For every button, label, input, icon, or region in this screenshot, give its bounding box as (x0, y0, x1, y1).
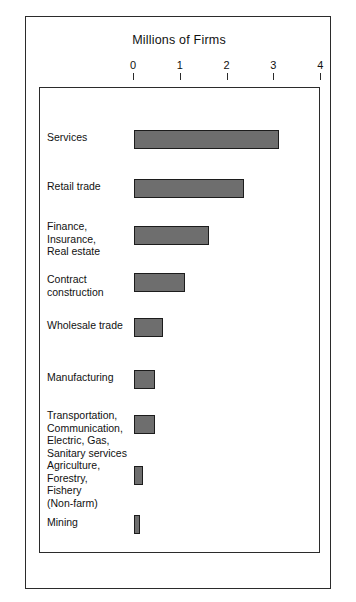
x-axis: 01234 (26, 59, 332, 87)
category-label: Manufacturing (47, 371, 114, 384)
chart-title: Millions of Firms (26, 33, 332, 47)
x-axis-tick-label: 0 (123, 59, 143, 71)
category-label: Retail trade (47, 180, 101, 193)
bar (134, 318, 163, 337)
bar (134, 370, 155, 389)
plot-area: ServicesRetail tradeFinance, Insurance, … (39, 87, 320, 553)
x-axis-tick (133, 73, 134, 80)
bar (134, 226, 209, 245)
x-axis-tick (320, 73, 321, 80)
category-label: Mining (47, 516, 78, 529)
x-axis-tick-label: 3 (263, 59, 283, 71)
bar (134, 466, 143, 485)
figure-frame: Millions of Firms 01234 ServicesRetail t… (25, 16, 331, 589)
category-label: Wholesale trade (47, 319, 123, 332)
category-label: Contract construction (47, 273, 104, 298)
x-axis-tick (180, 73, 181, 80)
x-axis-tick-label: 4 (310, 59, 330, 71)
bar (134, 273, 185, 292)
bar (134, 130, 279, 149)
x-axis-tick (227, 73, 228, 80)
bar (134, 415, 155, 434)
category-label: Agriculture, Forestry, Fishery (Non-farm… (47, 459, 100, 509)
category-label: Transportation, Communication, Electric,… (47, 409, 127, 459)
x-axis-tick-label: 2 (217, 59, 237, 71)
bar (134, 515, 140, 534)
category-label: Services (47, 131, 87, 144)
x-axis-tick (273, 73, 274, 80)
bar (134, 179, 244, 198)
category-label: Finance, Insurance, Real estate (47, 220, 100, 258)
x-axis-tick-label: 1 (170, 59, 190, 71)
